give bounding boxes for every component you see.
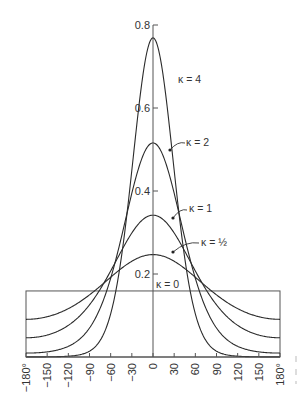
x-tick-label: −60 [105,363,117,382]
x-axis-ticks: −180°−150−120−90−60−300306090120150180° [20,353,286,392]
x-tick-label: −150 [41,363,53,388]
y-tick-label: 0.4 [135,185,150,197]
x-tick-label: 90 [211,363,223,375]
x-tick-label: −180° [20,363,32,392]
arrow-head [171,250,174,253]
label-kappa-4: κ = 4 [178,73,201,85]
x-tick-label: 30 [168,363,180,375]
x-tick-label: −30 [126,363,138,382]
y-tick-label: 0.6 [135,102,150,114]
y-tick-label: 0.2 [135,268,150,280]
arrow-head [171,216,174,219]
x-tick-label: −120 [62,363,74,388]
x-tick-label: 150 [253,363,265,381]
x-tick-label: 180° [274,363,286,386]
von-mises-chart: −180°−150−120−90−60−300306090120150180° … [0,0,299,406]
x-tick-label: 0 [147,363,159,369]
y-tick-label: 0.8 [135,19,150,31]
x-tick-label: −90 [84,363,96,382]
label-kappa-0: κ = 0 [156,278,179,290]
x-tick-label: 60 [189,363,201,375]
label-arrow [173,243,199,252]
label-kappa-half: κ = ½ [201,236,227,248]
label-kappa-1: κ = 1 [189,202,212,214]
x-tick-label: 120 [232,363,244,381]
arrow-head [168,148,171,151]
label-kappa-2: κ = 2 [186,136,209,148]
